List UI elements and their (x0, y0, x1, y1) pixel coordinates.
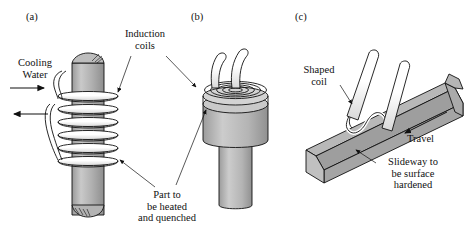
induction-coils-label: Induction coils (114, 28, 176, 51)
leader-lines-b (166, 56, 206, 185)
shaped-coil-line2: coil (294, 76, 344, 88)
cooling-water-line1: Cooling (6, 57, 64, 69)
slideway-line3: hardened (370, 179, 456, 191)
coil-leads-b (211, 49, 248, 88)
induction-hardening-figure: (a) (b) (c) Cooling Water Induction coil… (0, 0, 475, 238)
leader-lines-a (118, 56, 155, 187)
shaped-coil-line1: Shaped (294, 64, 344, 76)
part-label-line2: be heated (122, 201, 212, 213)
figure-canvas (0, 0, 475, 238)
panel-b-graphic (166, 49, 268, 209)
travel-label: Travel (407, 133, 434, 145)
slideway-line1: Slideway to (370, 156, 456, 168)
cooling-water-line2: Water (6, 69, 64, 81)
part-to-be-heated-label: Part to be heated and quenched (122, 189, 212, 224)
part-label-line3: and quenched (122, 212, 212, 224)
panel-label-b: (b) (191, 11, 203, 22)
part-label-line1: Part to (122, 189, 212, 201)
shaped-coil-label: Shaped coil (294, 64, 344, 87)
panel-label-a: (a) (26, 11, 38, 22)
induction-coils-line2: coils (114, 40, 176, 52)
cooling-water-label: Cooling Water (6, 57, 64, 80)
slideway-label: Slideway to be surface hardened (370, 156, 456, 191)
panel-label-c: (c) (295, 11, 307, 22)
induction-coils-line1: Induction (114, 28, 176, 40)
slideway-line2: be surface (370, 168, 456, 180)
